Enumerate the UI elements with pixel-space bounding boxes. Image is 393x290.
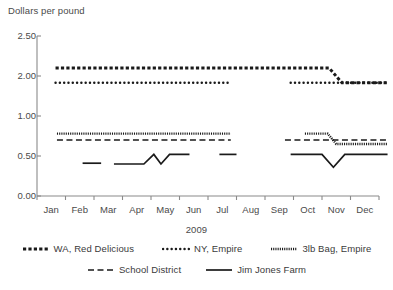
y-tick-label: 2.50 xyxy=(2,30,36,41)
legend-item-3lb-bag-empire[interactable]: 3lb Bag, Empire xyxy=(270,243,371,255)
series-segment xyxy=(56,68,389,83)
axes xyxy=(37,36,379,200)
chart-legend: WA, Red DeliciousNY, Empire3lb Bag, Empi… xyxy=(0,238,393,280)
legend-swatch-solid xyxy=(205,264,233,276)
legend-item-school-district[interactable]: School District xyxy=(87,264,181,276)
legend-swatch-fine-dotted xyxy=(270,243,298,255)
legend-row-1: WA, Red DeliciousNY, Empire3lb Bag, Empi… xyxy=(0,238,393,259)
y-tick-label: 0.50 xyxy=(2,150,36,161)
legend-swatch-dotted-round xyxy=(162,243,190,255)
legend-label: Jim Jones Farm xyxy=(237,264,306,275)
series-segment xyxy=(291,154,388,167)
x-tick-label-dec: Dec xyxy=(348,204,382,215)
y-tick-label: 1.00 xyxy=(2,110,36,121)
legend-item-ny-empire[interactable]: NY, Empire xyxy=(162,243,242,255)
legend-label: WA, Red Delicious xyxy=(54,243,135,254)
legend-swatch-square-dotted-thick xyxy=(22,243,50,255)
legend-row-2: School DistrictJim Jones Farm xyxy=(0,259,393,280)
series-segment xyxy=(305,134,388,144)
series-3lb-bag-empire xyxy=(57,134,388,144)
legend-label: 3lb Bag, Empire xyxy=(302,243,371,254)
x-axis-title: 2009 xyxy=(0,224,393,235)
legend-label: School District xyxy=(119,264,181,275)
data-series-layer xyxy=(56,68,389,167)
series-jim-jones-farm xyxy=(83,154,388,167)
series-wa-red-delicious xyxy=(56,68,389,83)
legend-label: NY, Empire xyxy=(194,243,242,254)
legend-swatch-dashed xyxy=(87,264,115,276)
series-segment xyxy=(114,154,190,164)
chart-container: Dollars per pound 2.502.001.000.500.00 J… xyxy=(0,0,393,290)
legend-item-jim-jones-farm[interactable]: Jim Jones Farm xyxy=(205,264,306,276)
y-tick-label: 0.00 xyxy=(2,190,36,201)
y-tick-label: 2.00 xyxy=(2,70,36,81)
legend-item-wa-red-delicious[interactable]: WA, Red Delicious xyxy=(22,243,135,255)
